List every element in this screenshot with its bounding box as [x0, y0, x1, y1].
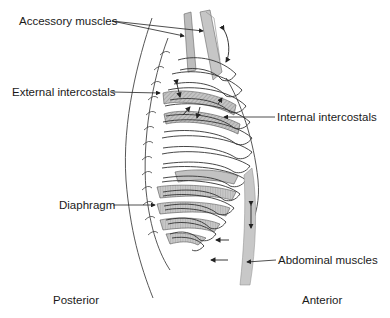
label-external-intercostals: External intercostals — [12, 86, 116, 99]
label-abdominal-muscles: Abdominal muscles — [278, 254, 378, 267]
respiratory-muscles-diagram — [0, 0, 390, 318]
label-accessory-muscles: Accessory muscles — [19, 15, 117, 28]
label-diaphragm: Diaphragm — [59, 199, 115, 212]
intercostal-bands — [163, 91, 240, 134]
label-posterior: Posterior — [53, 294, 99, 307]
back-outline — [125, 18, 170, 298]
label-anterior: Anterior — [302, 294, 342, 307]
abdominal-muscle — [240, 168, 256, 285]
label-internal-intercostals: Internal intercostals — [277, 111, 377, 124]
